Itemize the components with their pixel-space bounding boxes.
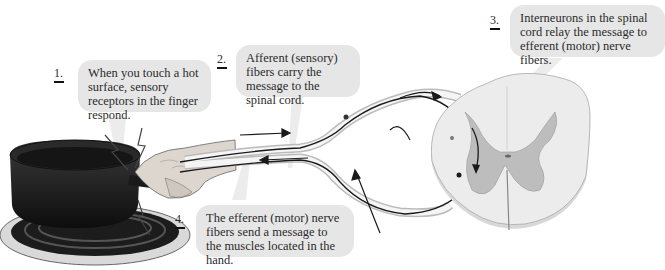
step-4-callout: The efferent (motor) nerve fibers send a… xyxy=(196,205,354,257)
step-3-callout: Interneurons in the spinal cord relay th… xyxy=(510,5,665,57)
step-3-number: 3. xyxy=(490,13,500,30)
step-2-number: 2. xyxy=(217,52,227,69)
step-2-callout: Afferent (sensory) fibers carry the mess… xyxy=(236,45,360,97)
step-1-callout: When you touch a hot surface, sensory re… xyxy=(78,60,211,112)
step-4-number: 4. xyxy=(175,212,185,229)
step-1-number: 1. xyxy=(54,66,64,83)
